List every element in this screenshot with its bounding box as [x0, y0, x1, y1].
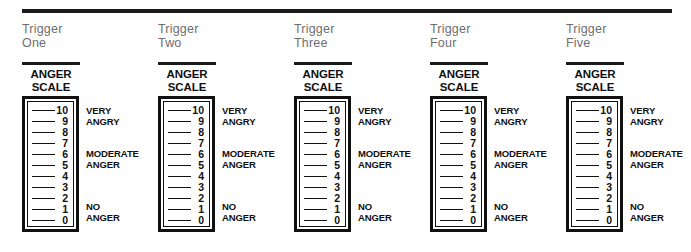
scale-row[interactable]: 0 [164, 215, 206, 226]
tick-mark-icon [304, 165, 327, 166]
tick-mark-icon [576, 198, 599, 199]
tick-mark-icon [304, 209, 327, 210]
scale-descriptor-label: ANGER [494, 212, 528, 224]
scale-descriptor-labels: VERYANGRYMODERATEANGERNOANGER [494, 96, 564, 232]
tick-mark-icon [32, 198, 55, 199]
tick-mark-icon [576, 132, 599, 133]
tick-mark-icon [32, 220, 55, 221]
anger-scale-box-inner: 109876543210 [435, 101, 482, 227]
scale-descriptor-label: ANGER [86, 212, 120, 224]
tick-mark-icon [440, 143, 463, 144]
trigger-column-2: Trigger TwoANGER SCALE109876543210VERYAN… [158, 0, 294, 252]
tick-mark-icon [32, 187, 55, 188]
trigger-column-5: Trigger FiveANGER SCALE109876543210VERYA… [566, 0, 691, 252]
scale-descriptor-label: ANGER [630, 159, 664, 171]
tick-mark-icon [440, 187, 463, 188]
tick-mark-icon [304, 154, 327, 155]
scale-header: ANGER SCALE [294, 62, 352, 93]
scale-descriptor-label: ANGER [358, 159, 392, 171]
tick-mark-icon [576, 176, 599, 177]
tick-mark-icon [32, 110, 55, 111]
tick-mark-icon [576, 143, 599, 144]
tick-mark-icon [168, 198, 191, 199]
tick-mark-icon [32, 154, 55, 155]
trigger-heading: Trigger Five [566, 22, 607, 50]
trigger-heading: Trigger Three [294, 22, 335, 50]
trigger-heading: Trigger One [22, 22, 63, 50]
scale-descriptor-label: ANGER [630, 212, 664, 224]
scale-descriptor-labels: VERYANGRYMODERATEANGERNOANGER [358, 96, 428, 232]
anger-scale-box[interactable]: 109876543210 [294, 96, 351, 232]
tick-mark-icon [304, 198, 327, 199]
scale-title: ANGER SCALE [566, 68, 624, 93]
scale-descriptor-labels: VERYANGRYMODERATEANGERNOANGER [86, 96, 156, 232]
tick-mark-icon [32, 121, 55, 122]
scale-descriptor-label: ANGER [494, 159, 528, 171]
anger-scale-box[interactable]: 109876543210 [430, 96, 487, 232]
tick-mark-icon [32, 209, 55, 210]
tick-mark-icon [168, 110, 191, 111]
scale-row[interactable]: 0 [300, 215, 342, 226]
trigger-heading: Trigger Two [158, 22, 199, 50]
anger-scale-box-inner: 109876543210 [571, 101, 618, 227]
scale-row[interactable]: 0 [436, 215, 478, 226]
tick-mark-icon [168, 187, 191, 188]
scale-descriptor-label: ANGRY [86, 116, 119, 128]
scale-descriptor-label: ANGRY [222, 116, 255, 128]
scale-descriptor-label: ANGER [222, 212, 256, 224]
tick-mark-icon [440, 220, 463, 221]
trigger-heading: Trigger Four [430, 22, 471, 50]
tick-mark-icon [32, 132, 55, 133]
scale-descriptor-labels: VERYANGRYMODERATEANGERNOANGER [630, 96, 691, 232]
scale-descriptor-label: ANGRY [358, 116, 391, 128]
scale-header: ANGER SCALE [566, 62, 624, 93]
tick-mark-icon [304, 110, 327, 111]
tick-mark-icon [168, 165, 191, 166]
scale-row[interactable]: 0 [28, 215, 70, 226]
tick-mark-icon [576, 165, 599, 166]
scale-descriptor-labels: VERYANGRYMODERATEANGERNOANGER [222, 96, 292, 232]
tick-mark-icon [440, 165, 463, 166]
tick-mark-icon [440, 176, 463, 177]
tick-mark-icon [304, 220, 327, 221]
tick-number: 0 [327, 215, 342, 226]
tick-mark-icon [32, 176, 55, 177]
tick-number: 0 [191, 215, 206, 226]
tick-mark-icon [168, 209, 191, 210]
scale-header-rule [22, 62, 80, 65]
tick-mark-icon [304, 187, 327, 188]
trigger-columns: Trigger OneANGER SCALE109876543210VERYAN… [0, 0, 691, 252]
tick-mark-icon [304, 121, 327, 122]
anger-scale-box[interactable]: 109876543210 [158, 96, 215, 232]
tick-mark-icon [304, 132, 327, 133]
tick-mark-icon [168, 176, 191, 177]
scale-header-rule [430, 62, 488, 65]
tick-mark-icon [32, 143, 55, 144]
scale-title: ANGER SCALE [22, 68, 80, 93]
tick-mark-icon [440, 154, 463, 155]
tick-mark-icon [304, 143, 327, 144]
scale-title: ANGER SCALE [158, 68, 216, 93]
anger-scale-box-inner: 109876543210 [163, 101, 210, 227]
tick-mark-icon [576, 154, 599, 155]
tick-number: 0 [463, 215, 478, 226]
scale-row[interactable]: 0 [572, 215, 614, 226]
tick-mark-icon [32, 165, 55, 166]
scale-descriptor-label: ANGRY [630, 116, 663, 128]
tick-mark-icon [576, 220, 599, 221]
tick-mark-icon [168, 143, 191, 144]
anger-scale-box[interactable]: 109876543210 [566, 96, 623, 232]
tick-mark-icon [440, 132, 463, 133]
scale-header-rule [294, 62, 352, 65]
trigger-column-4: Trigger FourANGER SCALE109876543210VERYA… [430, 0, 566, 252]
scale-header: ANGER SCALE [22, 62, 80, 93]
scale-title: ANGER SCALE [294, 68, 352, 93]
scale-header-rule [566, 62, 624, 65]
tick-mark-icon [168, 121, 191, 122]
anger-scale-box[interactable]: 109876543210 [22, 96, 79, 232]
tick-mark-icon [168, 154, 191, 155]
tick-number: 0 [55, 215, 70, 226]
tick-mark-icon [440, 198, 463, 199]
tick-mark-icon [576, 121, 599, 122]
scale-header: ANGER SCALE [430, 62, 488, 93]
